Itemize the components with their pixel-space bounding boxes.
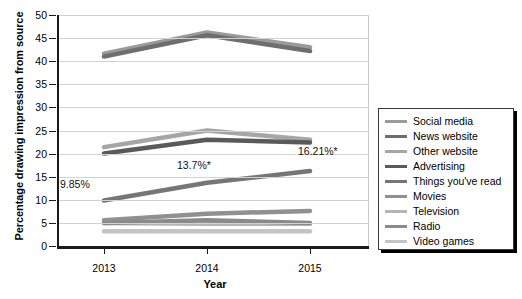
y-axis-line: [57, 15, 59, 248]
x-axis-tick-label: 2015: [280, 262, 340, 274]
legend-item[interactable]: Advertising: [385, 159, 513, 174]
legend-item-label: News website: [413, 131, 478, 142]
legend-item-label: Advertising: [413, 161, 465, 172]
y-axis-tick: [49, 15, 56, 16]
x-axis-tick: [104, 248, 105, 254]
y-axis-tick: [49, 38, 56, 39]
x-axis-title: Year: [55, 278, 375, 290]
gridline: [59, 177, 369, 178]
legend-swatch-icon: [385, 195, 407, 198]
legend-item-label: Radio: [413, 221, 440, 232]
legend-item-label: Movies: [413, 191, 446, 202]
legend-item-label: Things you've read: [413, 176, 501, 187]
gridline: [59, 200, 369, 201]
gridline: [59, 223, 369, 224]
data-label: 13.7%*: [177, 159, 211, 171]
y-axis-tick: [49, 246, 56, 247]
legend-item[interactable]: Other website: [385, 144, 513, 159]
legend-item[interactable]: News website: [385, 129, 513, 144]
gridline: [59, 38, 369, 39]
legend-item-label: Television: [413, 206, 459, 217]
y-axis-tick: [49, 154, 56, 155]
chart-figure: Percentage drawing impression from sourc…: [0, 0, 522, 299]
legend-swatch-icon: [385, 210, 407, 213]
x-axis-tick-label: 2014: [177, 262, 237, 274]
plot-area: 05101520253035404550 201320142015 9.85%1…: [57, 15, 369, 248]
y-axis-tick-label: 25: [17, 126, 47, 136]
legend-item[interactable]: Things you've read: [385, 174, 513, 189]
y-axis-tick-label: 30: [17, 102, 47, 112]
gridline: [59, 84, 369, 85]
y-axis-tick: [49, 107, 56, 108]
x-axis-tick: [310, 248, 311, 254]
y-axis-tick: [49, 84, 56, 85]
y-axis-tick-label: 0: [17, 241, 47, 251]
data-label: 16.21%*: [298, 145, 338, 157]
legend-item[interactable]: Video games: [385, 234, 513, 249]
y-axis-tick-label: 5: [17, 218, 47, 228]
series-line: [104, 171, 310, 200]
legend-item-label: Other website: [413, 146, 478, 157]
gridline: [59, 15, 369, 16]
y-axis-tick: [49, 223, 56, 224]
y-axis-tick-label: 20: [17, 149, 47, 159]
y-axis-tick-label: 45: [17, 33, 47, 43]
y-axis-tick-label: 35: [17, 79, 47, 89]
x-axis-tick: [207, 248, 208, 254]
legend-item[interactable]: Movies: [385, 189, 513, 204]
series-lines: [57, 15, 369, 248]
x-axis-tick-label: 2013: [74, 262, 134, 274]
y-axis-tick-label: 40: [17, 56, 47, 66]
legend-swatch-icon: [385, 135, 407, 138]
gridline: [59, 107, 369, 108]
legend-swatch-icon: [385, 165, 407, 168]
gridline: [59, 61, 369, 62]
legend-item-label: Video games: [413, 236, 474, 247]
y-axis-tick-label: 15: [17, 172, 47, 182]
plot-frame-right: [368, 15, 369, 248]
legend-swatch-icon: [385, 225, 407, 228]
y-axis-tick-label: 10: [17, 195, 47, 205]
legend-item[interactable]: Social media: [385, 114, 513, 129]
legend-item[interactable]: Radio: [385, 219, 513, 234]
y-axis-tick: [49, 61, 56, 62]
legend-item[interactable]: Television: [385, 204, 513, 219]
legend-swatch-icon: [385, 180, 407, 183]
chart-legend[interactable]: Social mediaNews websiteOther websiteAdv…: [378, 108, 514, 250]
legend-item-label: Social media: [413, 116, 473, 127]
legend-swatch-icon: [385, 240, 407, 243]
gridline: [59, 131, 369, 132]
y-axis-tick: [49, 131, 56, 132]
legend-swatch-icon: [385, 150, 407, 153]
y-axis-tick-label: 50: [17, 10, 47, 20]
y-axis-tick: [49, 177, 56, 178]
y-axis-tick: [49, 200, 56, 201]
legend-swatch-icon: [385, 120, 407, 123]
data-label: 9.85%: [60, 178, 90, 190]
